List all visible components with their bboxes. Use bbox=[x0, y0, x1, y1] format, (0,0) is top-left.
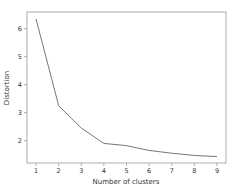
x-tick-label: 5 bbox=[124, 167, 128, 175]
y-tick-label: 5 bbox=[18, 53, 22, 61]
x-axis-ticks: 123456789 bbox=[34, 163, 219, 175]
distortion-line bbox=[36, 19, 217, 157]
y-tick-label: 2 bbox=[18, 137, 22, 145]
y-tick-label: 6 bbox=[18, 25, 22, 33]
x-tick-label: 7 bbox=[170, 167, 174, 175]
x-tick-label: 9 bbox=[215, 167, 219, 175]
x-tick-label: 2 bbox=[57, 167, 61, 175]
x-tick-label: 8 bbox=[192, 167, 196, 175]
x-tick-label: 6 bbox=[147, 167, 151, 175]
y-axis-label: Distortion bbox=[3, 71, 11, 105]
elbow-chart: 123456789 23456 Number of clusters Disto… bbox=[0, 0, 239, 190]
y-tick-label: 3 bbox=[18, 109, 22, 117]
x-tick-label: 1 bbox=[34, 167, 38, 175]
x-tick-label: 3 bbox=[79, 167, 83, 175]
plot-frame bbox=[27, 12, 226, 163]
x-tick-label: 4 bbox=[102, 167, 106, 175]
y-axis-ticks: 23456 bbox=[18, 25, 27, 145]
x-axis-label: Number of clusters bbox=[93, 178, 160, 186]
y-tick-label: 4 bbox=[18, 81, 22, 89]
